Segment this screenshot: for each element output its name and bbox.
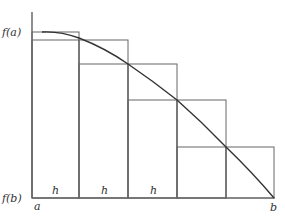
rect-lower-2	[79, 64, 128, 198]
label-h-1: h	[52, 184, 59, 197]
label-b: b	[270, 201, 277, 214]
label-h-2: h	[101, 184, 108, 197]
rect-upper-3	[128, 64, 177, 198]
rectangles	[32, 32, 274, 198]
rect-lower-4	[177, 147, 226, 198]
label-a: a	[34, 200, 41, 213]
label-h-3: h	[150, 184, 157, 197]
riemann-diagram: f(a) f(b) a b h h h	[0, 0, 285, 217]
rect-lower-1	[32, 40, 79, 198]
rect-upper-1	[32, 32, 79, 198]
rect-upper-4	[177, 100, 226, 198]
label-f-b: f(b)	[1, 192, 22, 205]
label-f-a: f(a)	[1, 26, 21, 39]
function-curve	[42, 32, 274, 198]
